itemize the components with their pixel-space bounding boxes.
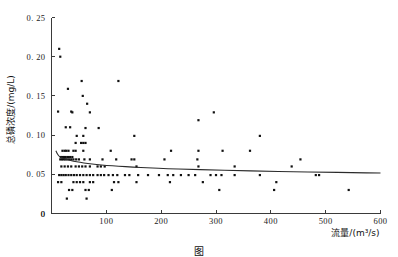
data-point bbox=[75, 165, 77, 167]
data-point bbox=[69, 156, 71, 158]
data-point bbox=[82, 95, 84, 97]
y-axis-tick-marks bbox=[52, 18, 56, 175]
x-tick-label-500: 500 bbox=[319, 216, 333, 226]
scatter-plot-figure: 0100200300400500600 00. 050. 100. 150. 2… bbox=[0, 0, 398, 257]
data-point bbox=[73, 174, 75, 176]
data-point bbox=[130, 158, 132, 160]
data-point bbox=[71, 111, 73, 113]
data-point bbox=[82, 142, 84, 144]
data-point bbox=[348, 189, 350, 191]
data-point bbox=[234, 165, 236, 167]
y-axis-title-group: 总磷浓度/(mg/L) bbox=[5, 75, 16, 144]
data-point bbox=[62, 174, 64, 176]
y-tick-label-0.25: 0. 25 bbox=[27, 13, 46, 23]
data-point bbox=[66, 198, 68, 200]
x-axis-tick-marks bbox=[106, 210, 380, 214]
data-point bbox=[158, 174, 160, 176]
y-tick-label-0.2: 0. 20 bbox=[27, 52, 46, 62]
x-tick-label-300: 300 bbox=[209, 216, 223, 226]
data-point bbox=[71, 189, 73, 191]
data-point bbox=[69, 126, 71, 128]
data-point bbox=[76, 181, 78, 183]
data-point bbox=[84, 165, 86, 167]
data-point bbox=[76, 174, 78, 176]
data-point bbox=[67, 156, 69, 158]
x-axis-tick-labels: 0100200300400500600 bbox=[41, 209, 388, 227]
data-point bbox=[65, 156, 67, 158]
x-tick-label-200: 200 bbox=[154, 216, 168, 226]
data-point bbox=[86, 103, 88, 105]
x-axis-title: 流量/(m³/s) bbox=[331, 227, 379, 238]
data-point bbox=[103, 174, 105, 176]
data-point bbox=[318, 174, 320, 176]
data-point bbox=[220, 174, 222, 176]
data-point bbox=[92, 181, 94, 183]
data-point bbox=[67, 165, 69, 167]
y-axis-tick-labels: 00. 050. 100. 150. 200. 25 bbox=[27, 13, 46, 219]
data-point bbox=[197, 150, 199, 152]
data-point bbox=[133, 158, 135, 160]
data-point bbox=[110, 150, 112, 152]
y-tick-label-0.15: 0. 15 bbox=[27, 91, 46, 101]
data-point bbox=[197, 165, 199, 167]
data-point bbox=[98, 127, 100, 129]
data-point bbox=[137, 174, 139, 176]
data-point bbox=[96, 165, 98, 167]
data-point bbox=[215, 174, 217, 176]
data-point bbox=[65, 174, 67, 176]
data-point bbox=[84, 127, 86, 129]
data-point bbox=[180, 174, 182, 176]
data-point bbox=[60, 174, 62, 176]
data-point bbox=[133, 135, 135, 137]
data-point bbox=[61, 150, 63, 152]
data-point bbox=[81, 80, 83, 82]
data-point bbox=[115, 158, 117, 160]
x-tick-label-400: 400 bbox=[264, 216, 278, 226]
data-point bbox=[89, 158, 91, 160]
data-point bbox=[64, 165, 66, 167]
data-point bbox=[89, 174, 91, 176]
data-point bbox=[259, 135, 261, 137]
data-point bbox=[315, 174, 317, 176]
data-point bbox=[92, 174, 94, 176]
data-point bbox=[107, 174, 109, 176]
data-point bbox=[170, 150, 172, 152]
data-point bbox=[78, 165, 80, 167]
data-point bbox=[124, 174, 126, 176]
data-point bbox=[111, 189, 113, 191]
trend-line bbox=[56, 151, 381, 173]
data-point bbox=[194, 174, 196, 176]
data-point bbox=[299, 158, 301, 160]
data-point bbox=[60, 165, 62, 167]
data-point bbox=[128, 174, 130, 176]
data-point bbox=[70, 174, 72, 176]
data-point bbox=[291, 165, 293, 167]
data-point bbox=[85, 198, 87, 200]
data-point bbox=[76, 135, 78, 137]
data-point bbox=[82, 150, 84, 152]
data-point bbox=[234, 174, 236, 176]
data-point bbox=[167, 174, 169, 176]
data-point bbox=[58, 48, 60, 50]
data-point bbox=[117, 181, 119, 183]
data-point bbox=[72, 158, 74, 160]
data-point bbox=[57, 110, 59, 112]
data-point bbox=[75, 142, 77, 144]
data-point bbox=[67, 150, 69, 152]
data-point bbox=[88, 189, 90, 191]
data-point bbox=[172, 174, 174, 176]
x-tick-label-600: 600 bbox=[374, 216, 388, 226]
data-point bbox=[65, 150, 67, 152]
data-point bbox=[116, 174, 118, 176]
data-point bbox=[89, 111, 91, 113]
data-point bbox=[59, 56, 61, 58]
data-point bbox=[80, 142, 82, 144]
data-point bbox=[197, 119, 199, 121]
data-point bbox=[57, 181, 59, 183]
data-point bbox=[79, 174, 81, 176]
x-tick-label-100: 100 bbox=[99, 216, 113, 226]
data-point bbox=[81, 165, 83, 167]
data-point bbox=[89, 165, 91, 167]
figure-caption: 图 bbox=[0, 243, 398, 257]
data-point bbox=[169, 181, 171, 183]
